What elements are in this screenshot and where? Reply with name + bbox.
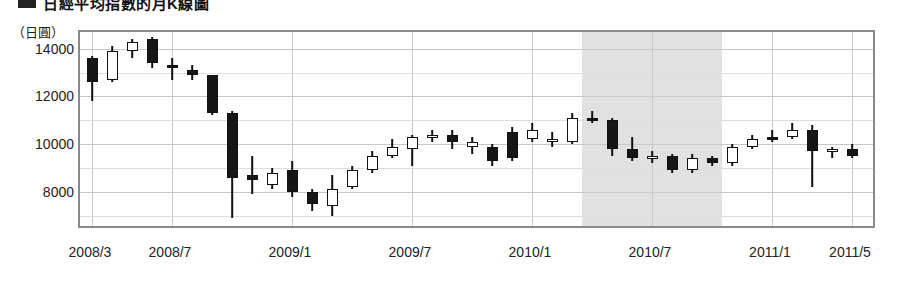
candle-body xyxy=(187,70,198,75)
candle-body xyxy=(527,130,538,140)
candlestick xyxy=(247,32,258,226)
candlestick xyxy=(467,32,478,226)
candlestick xyxy=(307,32,318,226)
plot-area xyxy=(78,30,875,228)
y-tick-label: 14000 xyxy=(35,41,74,57)
candle-body xyxy=(327,189,338,206)
x-tick-label: 2008/7 xyxy=(149,244,192,260)
candle-body xyxy=(267,173,278,185)
x-tick-label: 2010/1 xyxy=(509,244,552,260)
x-tick-label: 2009/1 xyxy=(269,244,312,260)
candlestick xyxy=(267,32,278,226)
candle-wick xyxy=(171,58,173,79)
candlestick xyxy=(367,32,378,226)
chart-title: 日經平均指數的月K線圖 xyxy=(18,0,209,12)
y-tick-label: 8000 xyxy=(43,184,74,200)
x-tick-label: 2011/5 xyxy=(829,244,871,260)
candlestick xyxy=(287,32,298,226)
candlestick xyxy=(567,32,578,226)
candle-body xyxy=(227,113,238,177)
candle-body xyxy=(567,118,578,142)
candlestick xyxy=(807,32,818,226)
y-tick-label: 10000 xyxy=(35,136,74,152)
candle-body xyxy=(647,156,658,159)
candlestick xyxy=(507,32,518,226)
candlestick xyxy=(127,32,138,226)
candlestick xyxy=(647,32,658,226)
candlestick xyxy=(447,32,458,226)
candlestick xyxy=(527,32,538,226)
candle-body xyxy=(547,139,558,142)
x-tick-label: 2008/3 xyxy=(69,244,112,260)
candlestick xyxy=(707,32,718,226)
candlestick xyxy=(587,32,598,226)
candlestick xyxy=(687,32,698,226)
x-tick-label: 2010/7 xyxy=(629,244,672,260)
candle-body xyxy=(87,58,98,82)
candlestick xyxy=(227,32,238,226)
x-tick-label: 2009/7 xyxy=(389,244,432,260)
candlestick xyxy=(427,32,438,226)
candlestick xyxy=(667,32,678,226)
y-axis-tick-labels: 1400012000100008000 xyxy=(0,30,74,228)
candlestick xyxy=(487,32,498,226)
candlestick xyxy=(767,32,778,226)
candle-body xyxy=(687,158,698,170)
candle-body xyxy=(767,137,778,140)
candle-body xyxy=(607,120,618,149)
candlestick xyxy=(167,32,178,226)
candlestick xyxy=(387,32,398,226)
candlestick xyxy=(207,32,218,226)
candle-body xyxy=(447,135,458,142)
candlestick xyxy=(787,32,798,226)
candlestick xyxy=(827,32,838,226)
candle-body xyxy=(827,149,838,152)
candle-body xyxy=(307,192,318,204)
candle-body xyxy=(387,147,398,157)
candle-body xyxy=(667,156,678,170)
candle-body xyxy=(467,142,478,147)
square-bullet-icon xyxy=(18,0,36,8)
candlestick xyxy=(87,32,98,226)
candle-body xyxy=(247,175,258,180)
candlestick xyxy=(407,32,418,226)
candlestick xyxy=(627,32,638,226)
candle-body xyxy=(427,135,438,138)
candle-body xyxy=(587,118,598,121)
candlestick xyxy=(187,32,198,226)
candle-body xyxy=(707,158,718,163)
candlestick xyxy=(547,32,558,226)
candlestick xyxy=(347,32,358,226)
candlestick xyxy=(327,32,338,226)
candle-body xyxy=(167,65,178,68)
candle-body xyxy=(367,156,378,170)
candle-body xyxy=(747,139,758,146)
candle-body xyxy=(727,147,738,164)
plot-inner xyxy=(80,32,873,226)
candle-body xyxy=(207,75,218,113)
candle-body xyxy=(147,39,158,63)
candlestick xyxy=(747,32,758,226)
candle-body xyxy=(107,51,118,80)
candle-body xyxy=(627,149,638,159)
candlestick xyxy=(607,32,618,226)
candlestick xyxy=(147,32,158,226)
candlestick xyxy=(727,32,738,226)
candle-body xyxy=(487,147,498,161)
candle-body xyxy=(287,170,298,191)
candle-body xyxy=(407,137,418,149)
chart-page: 日經平均指數的月K線圖 （日圓） 1400012000100008000 200… xyxy=(0,0,899,291)
candle-body xyxy=(507,132,518,158)
y-tick-label: 12000 xyxy=(35,88,74,104)
candle-body xyxy=(787,130,798,137)
candle-body xyxy=(847,149,858,156)
x-tick-label: 2011/1 xyxy=(749,244,791,260)
candlestick xyxy=(847,32,858,226)
candle-body xyxy=(127,42,138,52)
x-axis-tick-labels: 2008/32008/72009/12009/72010/12010/72011… xyxy=(78,232,875,272)
chart-title-text: 日經平均指數的月K線圖 xyxy=(43,0,209,13)
candle-body xyxy=(807,130,818,151)
candlestick xyxy=(107,32,118,226)
candle-body xyxy=(347,170,358,187)
